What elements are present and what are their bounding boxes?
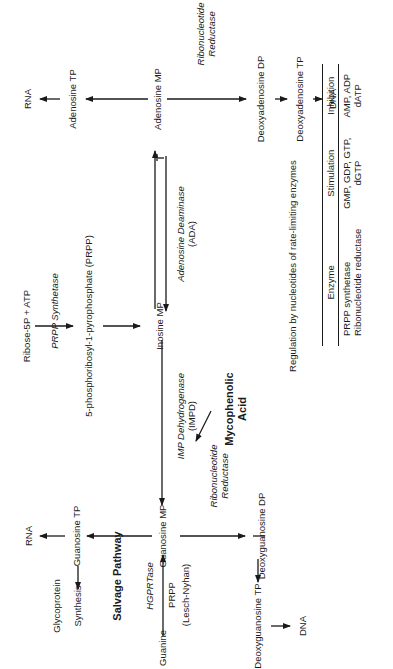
myco-line2: Acid xyxy=(236,372,249,445)
label-prpp-synthetase: PRPP Synthetase xyxy=(50,273,61,349)
label-ribonucleotide-reductase-adenosine: Ribonucleotide Reductase xyxy=(196,3,218,66)
node-rna-adenosine: RNA xyxy=(23,89,34,109)
cell-stimulation: GMP, GDP, GTP, dGTP xyxy=(339,128,364,219)
node-guanosine-tp: Guanosine TP xyxy=(72,506,83,567)
label-mycophenolic-acid: Mycophenolic Acid xyxy=(223,372,248,445)
column-header-enzyme: Enzyme xyxy=(323,219,339,346)
node-prpp: 5-phosphoribosyl-1-pyrophosphate (PRPP) xyxy=(84,235,95,417)
enzyme-ribonucleotide-reductase: Ribonucleotide reductase xyxy=(353,229,364,336)
node-guanosine-mp: Guanosine MP xyxy=(158,505,169,568)
label-imp-dehydrogenase: IMP Dehydrogenase (IMPD) xyxy=(176,373,198,459)
node-deoxyadenosine-tp: Deoxyadenosine TP xyxy=(295,56,306,141)
rr-line2: Reductase xyxy=(207,3,218,66)
table-header-row: Enzyme Stimulation Inhibition xyxy=(323,64,339,346)
label-lesch-nyhan: (Lesch-Nyhan) xyxy=(181,564,192,626)
node-deoxyguanosine-tp: Deoxyguanosine TP xyxy=(253,583,264,668)
node-inosine-mp: Inosine MP xyxy=(155,302,166,350)
column-header-inhibition: Inhibition xyxy=(323,64,339,128)
node-rna-guanosine: RNA xyxy=(24,526,35,546)
node-synthesis: Synthesis xyxy=(73,585,84,626)
ada-abbrev: (ADA) xyxy=(187,186,198,282)
regulation-table: Enzyme Stimulation Inhibition PRPP synth… xyxy=(322,64,364,346)
node-deoxyguanosine-dp: Deoxyguanosine DP xyxy=(257,493,268,580)
node-adenosine-mp: Adenosine MP xyxy=(153,68,164,130)
node-dna-guanosine: DNA xyxy=(298,616,309,636)
node-deoxyadenosine-dp: Deoxyadenosine DP xyxy=(256,56,267,143)
node-adenosine-tp: Adenosine TP xyxy=(68,69,79,129)
cell-enzyme: PRPP synthetase Ribonucleotide reductase xyxy=(339,219,364,346)
node-glycoprotein: Glycoprotein xyxy=(52,579,63,632)
label-ribonucleotide-reductase-guanosine: Ribonucleotide Reductase xyxy=(209,445,231,508)
inhibition-rr: dATP xyxy=(353,74,364,118)
regulation-table-caption: Regulation by nucleotides of rate-limiti… xyxy=(288,160,299,372)
table-row: PRPP synthetase Ribonucleotide reductase… xyxy=(339,64,364,346)
stimulation-rr: dGTP xyxy=(353,138,364,209)
label-salvage-pathway: Salvage Pathway xyxy=(111,531,124,620)
node-guanine: Guanine xyxy=(158,630,169,666)
node-ribose-5p-atp: Ribose-5P + ATP xyxy=(22,290,33,362)
cell-inhibition: AMP, ADP dATP xyxy=(339,64,364,128)
rr-line2: Reductase xyxy=(220,445,231,508)
column-header-stimulation: Stimulation xyxy=(323,128,339,219)
label-prpp-salvage: PRPP xyxy=(167,582,178,608)
myco-line1: Mycophenolic xyxy=(223,372,236,445)
impd-abbrev: (IMPD) xyxy=(187,373,198,459)
label-adenosine-deaminase: Adenosine Deaminase (ADA) xyxy=(176,186,198,282)
label-hgprtase: HGPRTase xyxy=(145,562,156,610)
